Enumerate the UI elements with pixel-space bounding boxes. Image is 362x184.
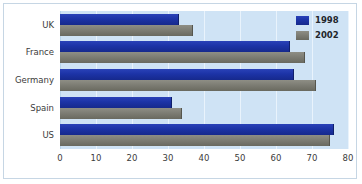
bar-spain-1998	[60, 97, 172, 108]
chart-legend: 1998 2002	[296, 14, 352, 44]
legend-swatch-1998	[296, 16, 309, 25]
x-tick-80: 80	[343, 153, 354, 163]
bar-france-2002	[60, 52, 305, 63]
x-axis-tick-labels: 01020304050607080	[60, 150, 348, 168]
legend-label-2002: 2002	[315, 30, 339, 40]
x-tick-10: 10	[91, 153, 102, 163]
x-tick-30: 30	[163, 153, 174, 163]
category-label-germany: Germany	[0, 75, 54, 85]
x-tick-70: 70	[307, 153, 318, 163]
category-axis-labels: UKFranceGermanySpainUS	[0, 11, 58, 149]
bar-us-1998	[60, 124, 334, 135]
bar-germany-1998	[60, 69, 294, 80]
bar-uk-2002	[60, 25, 193, 36]
legend-swatch-2002	[296, 31, 309, 40]
x-tick-20: 20	[127, 153, 138, 163]
x-tick-50: 50	[235, 153, 246, 163]
legend-item-2002: 2002	[296, 29, 352, 41]
bar-us-2002	[60, 135, 330, 146]
x-tick-0: 0	[57, 153, 62, 163]
category-label-us: US	[0, 130, 54, 140]
x-tick-40: 40	[199, 153, 210, 163]
legend-label-1998: 1998	[315, 15, 339, 25]
x-tick-60: 60	[271, 153, 282, 163]
bar-germany-2002	[60, 80, 316, 91]
bar-france-1998	[60, 41, 290, 52]
category-label-france: France	[0, 47, 54, 57]
category-label-uk: UK	[0, 20, 54, 30]
chart-screenshot: UKFranceGermanySpainUS 01020304050607080…	[0, 0, 362, 184]
bar-uk-1998	[60, 14, 179, 25]
bar-spain-2002	[60, 108, 182, 119]
legend-item-1998: 1998	[296, 14, 352, 26]
category-label-spain: Spain	[0, 103, 54, 113]
